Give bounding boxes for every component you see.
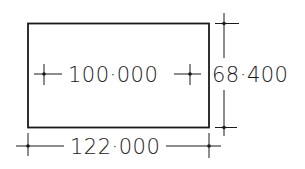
inner-width-dimension: 100·000 — [34, 63, 201, 87]
dimension-point-icon — [222, 126, 226, 130]
dimension-drawing: 100·000 68·400 122·000 — [0, 0, 305, 169]
dimension-point-icon — [42, 72, 46, 76]
overall-height-label: 68·400 — [212, 63, 288, 87]
dimension-point-icon — [188, 72, 192, 76]
inner-width-label: 100·000 — [68, 63, 158, 87]
dimension-point-icon — [207, 144, 211, 148]
overall-width-dimension: 122·000 — [16, 133, 221, 159]
dimension-point-icon — [222, 22, 226, 26]
overall-height-dimension: 68·400 — [212, 13, 288, 136]
overall-width-label: 122·000 — [70, 135, 160, 159]
dimension-point-icon — [26, 144, 30, 148]
